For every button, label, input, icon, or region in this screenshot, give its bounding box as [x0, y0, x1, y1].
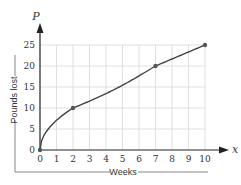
x-tick-label: 10	[199, 154, 211, 164]
y-variable: P	[31, 10, 40, 23]
y-axis-arrow-icon	[37, 23, 44, 33]
y-tick-label: 0	[29, 145, 35, 155]
x-tick-label: 6	[136, 154, 142, 164]
x-tick-label: 2	[70, 154, 76, 164]
x-tick-label: 8	[169, 154, 175, 164]
y-tick-label: 25	[24, 40, 36, 50]
x-tick-label: 3	[87, 154, 93, 164]
y-tick-label: 5	[29, 124, 35, 134]
y-tick-label: 15	[24, 82, 36, 92]
x-tick-label: 7	[153, 154, 159, 164]
x-tick-label: 5	[120, 154, 126, 164]
data-point	[153, 64, 157, 68]
data-point	[71, 106, 75, 110]
x-tick-label: 0	[37, 154, 43, 164]
data-point	[203, 43, 207, 47]
data-point	[38, 148, 42, 152]
x-tick-label: 1	[54, 154, 60, 164]
x-variable: x	[232, 143, 239, 156]
y-tick-label: 20	[24, 61, 36, 71]
x-axis-title: Weeks	[109, 167, 137, 177]
y-tick-label: 10	[24, 103, 36, 113]
x-tick-label: 9	[186, 154, 192, 164]
chart: 0123456789100510152025PxWeeksPounds lost	[0, 0, 241, 185]
x-axis-arrow-icon	[219, 147, 229, 154]
y-axis-title: Pounds lost	[9, 76, 19, 124]
x-tick-label: 4	[103, 154, 109, 164]
